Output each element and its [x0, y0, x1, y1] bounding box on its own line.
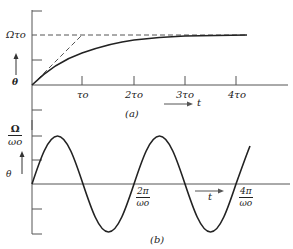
figure-canvas: [0, 0, 293, 249]
panel-b-axes: [32, 120, 290, 234]
x-tick-label-3: 3τo: [176, 90, 194, 100]
x-tick-label-4: 4τo: [228, 90, 246, 100]
y-axis-label-b: θ: [6, 170, 11, 179]
response-curve: [32, 35, 247, 85]
t-arrow-head-b: [218, 189, 224, 194]
amplitude-label-den: ωo: [8, 136, 22, 147]
asymptote-label: Ωτo: [6, 30, 26, 40]
x-axis-label-b: t: [208, 192, 212, 202]
t-arrow-head-a: [187, 102, 193, 107]
x-tick-label-2: 2τo: [125, 90, 143, 100]
panel-a-axes: [32, 10, 288, 130]
x-tick-label-1: τo: [77, 90, 89, 100]
theta-arrow-head-b: [20, 151, 25, 157]
amplitude-label-num: Ω: [8, 124, 22, 136]
theta-arrow-head-a: [14, 53, 19, 59]
caption-a: (a): [125, 108, 139, 119]
x-tick-4pi-den: ωo: [239, 198, 253, 208]
x-tick-label-4pi: 4π ωo: [239, 187, 253, 208]
amplitude-label: Ω ωo: [8, 124, 22, 147]
x-tick-label-2pi: 2π ωo: [136, 187, 150, 208]
x-axis-label-a: t: [197, 98, 201, 108]
x-tick-2pi-den: ωo: [136, 198, 150, 208]
caption-b: (b): [150, 234, 164, 245]
y-axis-label-a: θ: [12, 78, 18, 87]
x-tick-2pi-num: 2π: [136, 187, 150, 198]
x-tick-4pi-num: 4π: [239, 187, 253, 198]
